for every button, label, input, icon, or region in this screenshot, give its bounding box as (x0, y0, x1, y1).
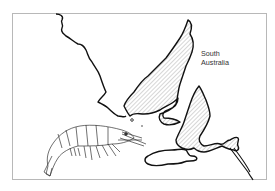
fleurieu-peninsula (176, 86, 239, 152)
map-illustration (0, 0, 275, 191)
island (141, 125, 142, 126)
island (131, 119, 134, 122)
region-label: South Australia (201, 49, 229, 67)
prawn-illustration (44, 125, 146, 176)
coorong-coast (230, 148, 253, 180)
west-coastline (56, 14, 126, 117)
region-label-line-1: South (201, 49, 229, 58)
kangaroo-island (145, 149, 197, 165)
region-label-line-2: Australia (201, 58, 229, 67)
yorke-peninsula (124, 20, 193, 125)
